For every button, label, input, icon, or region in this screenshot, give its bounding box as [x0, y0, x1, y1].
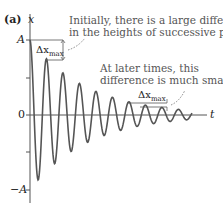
tick-A: A: [17, 34, 25, 46]
late-delta-label: Δxmax: [138, 89, 166, 105]
late-note-line2: difference is much smaller.: [100, 74, 223, 86]
early-delta-label: Δxmax: [36, 44, 64, 60]
early-note-line1: Initially, there is a large difference: [69, 14, 223, 26]
panel-label: (a): [4, 14, 22, 26]
damped-curve: [30, 40, 192, 180]
tick-minus-A: −A: [10, 184, 27, 196]
tick-zero: 0: [18, 109, 25, 121]
x-axis-label: t: [210, 109, 214, 121]
damped-oscillation-figure: (a) x t A 0 −A Initially, there is a lar…: [0, 0, 223, 211]
y-axis-label: x: [28, 14, 34, 26]
late-note-line1: At later times, this: [100, 62, 199, 74]
early-note-line2: in the heights of successive peaks.: [69, 26, 223, 38]
